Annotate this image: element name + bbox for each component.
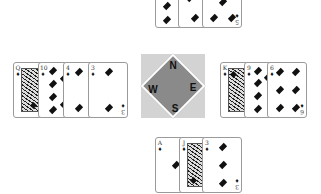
suit-icon: ♦ <box>120 103 126 109</box>
rank: 3 <box>235 184 239 191</box>
suit-icon: ♦ <box>181 146 187 152</box>
suit-icon: ♦ <box>90 71 96 77</box>
compass-south-label: S <box>169 103 181 114</box>
card-index: 3♦ <box>90 65 96 77</box>
rank: 3 <box>205 139 209 146</box>
card-south-3-diamonds[interactable]: 3♦ 3♦ <box>202 137 242 193</box>
compass-north-label: N <box>167 60 179 71</box>
card-index: 4♦ <box>65 65 71 77</box>
card-index: 6♦ <box>269 65 275 77</box>
card-index: 3♦ <box>204 140 210 152</box>
card-index: Q♦ <box>15 65 21 77</box>
suit-icon: ♦ <box>157 146 163 152</box>
rank: Q <box>16 64 21 71</box>
suit-icon: ♦ <box>246 71 252 77</box>
rank: 10 <box>40 64 48 71</box>
rank: 4 <box>66 64 70 71</box>
suit-icon: ♦ <box>15 71 21 77</box>
card-index: A♦ <box>157 140 163 152</box>
suit-icon: ♦ <box>204 146 210 152</box>
rank: 3 <box>91 64 95 71</box>
suit-icon: ♦ <box>299 103 305 109</box>
compass-east-label: E <box>187 82 199 93</box>
card-index: 10♦ <box>40 65 46 77</box>
suit-icon: ♦ <box>65 71 71 77</box>
card-index: 3♦ <box>120 103 126 115</box>
card-index: 6♦ <box>299 103 305 115</box>
card-east-6-diamonds[interactable]: 6♦ 6♦ <box>267 62 307 118</box>
rank: 6 <box>300 109 304 116</box>
rank: J <box>183 139 185 146</box>
suit-icon: ♦ <box>222 71 228 77</box>
suit-icon: ♦ <box>40 71 46 77</box>
rank: 6 <box>270 64 274 71</box>
card-index: 3♦ <box>234 178 240 190</box>
rank: 9 <box>247 64 251 71</box>
card-index: 5♦ <box>234 13 240 25</box>
card-index: J♦ <box>181 140 187 152</box>
card-west-3-diamonds[interactable]: 3♦ 3♦ <box>88 62 128 118</box>
rank: 5 <box>235 19 239 26</box>
rank: A <box>158 139 162 146</box>
rank: K <box>223 64 227 71</box>
compass-rose: N E S W <box>141 54 205 118</box>
rank: 3 <box>121 109 125 116</box>
card-index: K♦ <box>222 65 228 77</box>
suit-icon: ♦ <box>234 13 240 19</box>
suit-icon: ♦ <box>234 178 240 184</box>
compass-west-label: W <box>147 84 159 95</box>
card-north-5-diamonds[interactable]: 5♦ <box>202 0 242 28</box>
suit-icon: ♦ <box>269 71 275 77</box>
card-index: 9♦ <box>246 65 252 77</box>
